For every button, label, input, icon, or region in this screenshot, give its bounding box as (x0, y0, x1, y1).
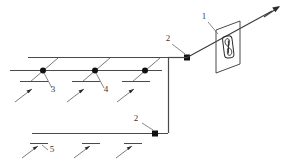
outlet-arrow (264, 6, 280, 17)
fan-unit-panel (208, 21, 240, 73)
label-2-lower: 2 (134, 113, 139, 123)
lower-junction-group (142, 123, 158, 137)
fan-impeller-symbol (225, 39, 232, 56)
leader-line-5 (42, 145, 48, 150)
branch-unit-3 (117, 58, 160, 102)
schematic-diagram: 1 2 3 4 2 5 (0, 0, 287, 165)
label-1: 1 (202, 11, 207, 21)
label-3: 3 (51, 84, 56, 94)
discharge-diagonal-line (187, 11, 272, 58)
first-branch-node (40, 68, 46, 74)
leader-line-2-lower (142, 123, 153, 130)
schematic-canvas: 1 2 3 4 2 5 (0, 0, 287, 165)
inlet-arrow-2 (67, 89, 84, 102)
label-4: 4 (104, 84, 109, 94)
branch-unit-1 (15, 58, 58, 102)
inlet-arrow-3 (117, 89, 134, 102)
lower-branch-unit-1 (22, 144, 48, 159)
label-2-upper: 2 (166, 33, 171, 43)
lower-branch-unit-2 (74, 144, 100, 159)
leader-line-2-upper (172, 44, 185, 54)
leader-line-1 (208, 22, 218, 34)
lower-junction-node (152, 131, 158, 137)
branch-unit-2 (67, 58, 110, 102)
lower-branch-unit-3 (116, 144, 142, 159)
inlet-arrow-1 (15, 89, 32, 102)
inlet-arrow-5 (74, 146, 90, 158)
inlet-arrow-6 (116, 146, 132, 158)
label-5: 5 (50, 144, 55, 154)
third-branch-node (142, 68, 148, 74)
inlet-arrow-4 (22, 146, 38, 158)
second-branch-node (92, 68, 98, 74)
